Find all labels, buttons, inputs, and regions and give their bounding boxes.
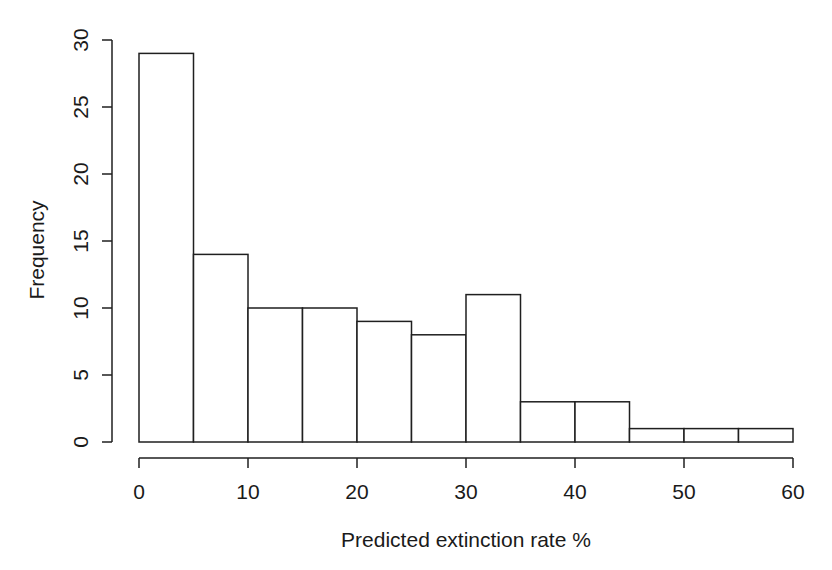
x-tick-label: 20 [345,480,368,503]
histogram-figure: 0510152025300102030405060 Predicted exti… [0,0,832,570]
histogram-bar [248,308,303,442]
x-tick-label: 50 [672,480,695,503]
y-tick-label: 10 [69,296,92,319]
histogram-bar [575,402,630,442]
y-tick-label: 15 [69,229,92,252]
y-tick-label: 5 [69,369,92,381]
x-tick-label: 40 [563,480,586,503]
x-axis-title: Predicted extinction rate % [341,528,591,551]
x-tick-label: 10 [236,480,259,503]
x-tick-label: 0 [133,480,145,503]
y-tick-label: 25 [69,95,92,118]
y-axis-title: Frequency [25,200,48,300]
histogram-bar [630,429,685,442]
histogram-bar [521,402,576,442]
histogram-bar [739,429,794,442]
y-tick-label: 30 [69,28,92,51]
y-tick-label: 0 [69,436,92,448]
histogram-bar [412,335,467,442]
histogram-chart: 0510152025300102030405060 Predicted exti… [0,0,832,570]
histogram-bar [466,295,521,442]
histogram-bar [684,429,739,442]
histogram-bar [139,53,194,442]
x-tick-label: 30 [454,480,477,503]
x-tick-label: 60 [781,480,804,503]
histogram-bar [357,321,412,442]
histogram-bar [194,254,249,442]
histogram-bar [303,308,358,442]
bars-group [139,53,793,442]
y-tick-label: 20 [69,162,92,185]
